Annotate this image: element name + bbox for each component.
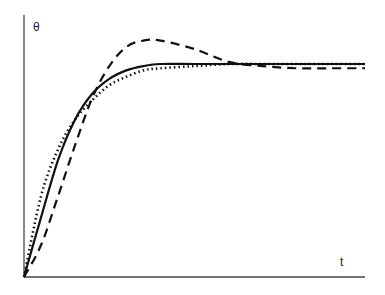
- step-response-chart: [0, 0, 385, 295]
- solid-series-line: [24, 64, 365, 277]
- y-axis-label: θ: [33, 20, 40, 34]
- x-axis-label: t: [340, 255, 343, 269]
- dotted-series-line: [24, 64, 365, 277]
- dashed-series-line: [24, 40, 365, 277]
